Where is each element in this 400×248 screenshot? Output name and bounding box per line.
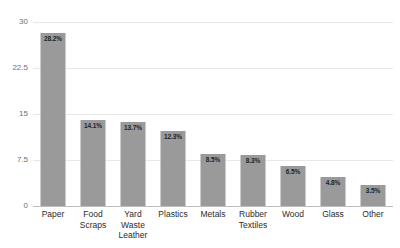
x-label-line1: Glass <box>322 209 344 219</box>
x-label-line1: Paper <box>42 209 65 219</box>
bar-food-scraps[interactable]: 14.1% <box>81 120 106 206</box>
x-label-rubber-textiles: RubberTextiles <box>233 209 273 230</box>
x-label-yard-waste-leather: Yard WasteLeather <box>113 209 153 241</box>
x-axis-category-labels: PaperFoodScrapsYard WasteLeatherPlastics… <box>33 209 393 248</box>
bar-value-label: 14.1% <box>81 122 106 129</box>
bar-slot: 4.8% <box>313 22 353 206</box>
bar-value-label: 28.2% <box>41 35 66 42</box>
bar-yard-waste-leather[interactable]: 13.7% <box>121 122 146 206</box>
bar-series: 28.2%14.1%13.7%12.3%8.5%8.3%6.5%4.8%3.5% <box>33 22 393 206</box>
bar-wood[interactable]: 6.5% <box>281 166 306 206</box>
x-label-line2: Scraps <box>73 220 113 231</box>
x-label-line1: Other <box>362 209 383 219</box>
x-label-other: Other <box>353 209 393 220</box>
y-tick-30: 30 <box>0 18 28 26</box>
bar-other[interactable]: 3.5% <box>361 185 386 206</box>
y-tick-22.5: 22.5 <box>0 64 28 72</box>
y-tick-15: 15 <box>0 110 28 118</box>
x-label-line1: Yard Waste <box>121 209 145 230</box>
x-label-line1: Rubber <box>239 209 267 219</box>
bar-metals[interactable]: 8.5% <box>201 154 226 206</box>
x-label-line1: Wood <box>282 209 304 219</box>
x-label-plastics: Plastics <box>153 209 193 220</box>
x-label-line2: Textiles <box>233 220 273 231</box>
bar-value-label: 12.3% <box>161 133 186 140</box>
bar-slot: 8.5% <box>193 22 233 206</box>
bar-slot: 14.1% <box>73 22 113 206</box>
bar-paper[interactable]: 28.2% <box>41 33 66 206</box>
x-label-glass: Glass <box>313 209 353 220</box>
y-tick-0: 0 <box>0 202 28 210</box>
bar-slot: 28.2% <box>33 22 73 206</box>
x-label-line1: Plastics <box>158 209 187 219</box>
bar-plastics[interactable]: 12.3% <box>161 131 186 206</box>
bar-value-label: 4.8% <box>321 179 346 186</box>
bar-slot: 3.5% <box>353 22 393 206</box>
bar-chart: 07.51522.530 28.2%14.1%13.7%12.3%8.5%8.3… <box>0 0 400 248</box>
bar-slot: 12.3% <box>153 22 193 206</box>
bar-value-label: 6.5% <box>281 168 306 175</box>
x-label-line1: Food <box>83 209 102 219</box>
plot-area: 28.2%14.1%13.7%12.3%8.5%8.3%6.5%4.8%3.5% <box>33 22 393 206</box>
gridline-0 <box>33 206 393 207</box>
bar-value-label: 8.3% <box>241 157 266 164</box>
bar-slot: 8.3% <box>233 22 273 206</box>
bar-slot: 13.7% <box>113 22 153 206</box>
bar-rubber-textiles[interactable]: 8.3% <box>241 155 266 206</box>
bar-glass[interactable]: 4.8% <box>321 177 346 206</box>
y-tick-7.5: 7.5 <box>0 156 28 164</box>
chart-title-cropped <box>0 0 400 4</box>
x-label-food-scraps: FoodScraps <box>73 209 113 230</box>
bar-value-label: 13.7% <box>121 124 146 131</box>
x-label-metals: Metals <box>193 209 233 220</box>
x-label-line2: Leather <box>113 230 153 241</box>
x-label-line1: Metals <box>200 209 225 219</box>
bar-value-label: 3.5% <box>361 187 386 194</box>
bar-slot: 6.5% <box>273 22 313 206</box>
bar-value-label: 8.5% <box>201 156 226 163</box>
x-label-wood: Wood <box>273 209 313 220</box>
x-label-paper: Paper <box>33 209 73 220</box>
